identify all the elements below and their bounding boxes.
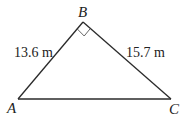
side-ab: [18, 22, 83, 99]
side-label-ab: 13.6 m: [14, 45, 53, 60]
side-bc: [83, 22, 171, 99]
right-triangle-diagram: B A C 13.6 m 15.7 m: [0, 0, 186, 126]
side-label-bc: 15.7 m: [126, 45, 165, 60]
right-angle-marker: [77, 29, 90, 36]
vertex-label-c: C: [169, 101, 180, 117]
vertex-label-b: B: [78, 4, 87, 20]
vertex-label-a: A: [6, 100, 17, 116]
